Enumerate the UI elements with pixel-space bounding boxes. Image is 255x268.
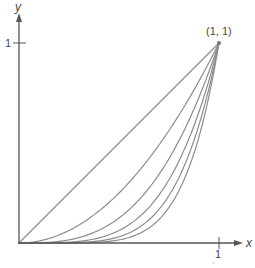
- y-tick-label: 1: [5, 37, 11, 49]
- curves-group: [19, 43, 219, 243]
- x-axis-arrow-icon: [234, 240, 243, 246]
- y-axis-arrow-icon: [16, 13, 22, 22]
- x-tick-label: 1: [215, 248, 221, 260]
- y-axis-label: y: [14, 0, 22, 14]
- point-1-1: [217, 41, 221, 45]
- curve-power-1: [19, 43, 219, 243]
- x-axis-label: x: [245, 236, 253, 250]
- point-label: (1, 1): [206, 25, 232, 37]
- power-curves-diagram: y 1 x 1 (1, 1): [0, 0, 255, 268]
